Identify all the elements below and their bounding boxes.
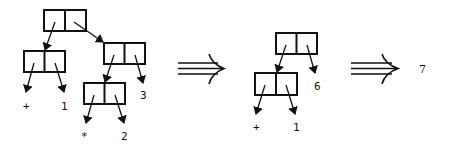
- cons-cell-bottom: [84, 83, 125, 104]
- cons-cell-right: [104, 43, 145, 64]
- leaf-label-two: 2: [121, 130, 128, 143]
- evaluation-diagram: + 1 3 * 2 6 + 1 7: [0, 0, 449, 146]
- leaf-label-three: 3: [140, 89, 147, 102]
- implies-arrow-icon: [351, 54, 398, 84]
- cons-cell-root: [276, 33, 317, 54]
- stage-2-tree: 6 + 1: [253, 33, 321, 134]
- leaf-label-star: *: [81, 130, 88, 143]
- cons-cell-root: [44, 10, 86, 31]
- implies-arrow-icon: [178, 54, 224, 84]
- cons-cell-left: [24, 51, 65, 72]
- leaf-label-plus: +: [253, 121, 260, 134]
- leaf-label-one: 1: [61, 100, 68, 113]
- result-value: 7: [419, 63, 426, 76]
- leaf-label-one: 1: [293, 121, 300, 134]
- leaf-label-six: 6: [314, 80, 321, 93]
- cons-cell-left: [255, 73, 297, 95]
- stage-1-tree: + 1 3 * 2: [23, 10, 147, 143]
- leaf-label-plus: +: [23, 100, 30, 113]
